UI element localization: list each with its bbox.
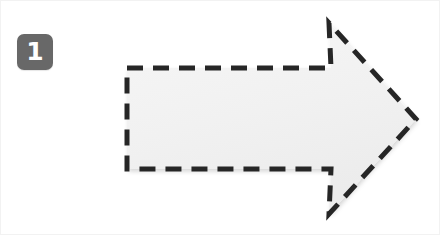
dashed-right-arrow bbox=[1, 1, 440, 235]
arrow-fill-shape bbox=[127, 23, 416, 214]
screenshot-canvas: 1 bbox=[0, 0, 440, 235]
